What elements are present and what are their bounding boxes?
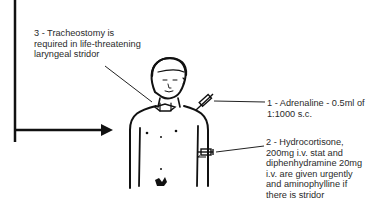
hydrocortisone-annotation: 2 - Hydrocortisone, 200mg i.v. stat and …: [266, 137, 368, 201]
body-marks: [146, 130, 178, 186]
adrenaline-annotation: 1 - Adrenaline - 0.5ml of 1:1000 s.c.: [267, 98, 367, 119]
adrenaline-pointer-line: [214, 101, 265, 102]
patient-figure-icon: [130, 58, 208, 188]
tracheostomy-annotation: 3 - Tracheostomy is required in life-thr…: [34, 28, 144, 60]
hydrocortisone-pointer-line: [216, 146, 264, 152]
syringe-icon: [196, 94, 213, 110]
flow-arrow: [15, 0, 113, 142]
tracheostomy-pointer-line: [105, 66, 152, 102]
iv-syringe-icon: [197, 149, 213, 157]
